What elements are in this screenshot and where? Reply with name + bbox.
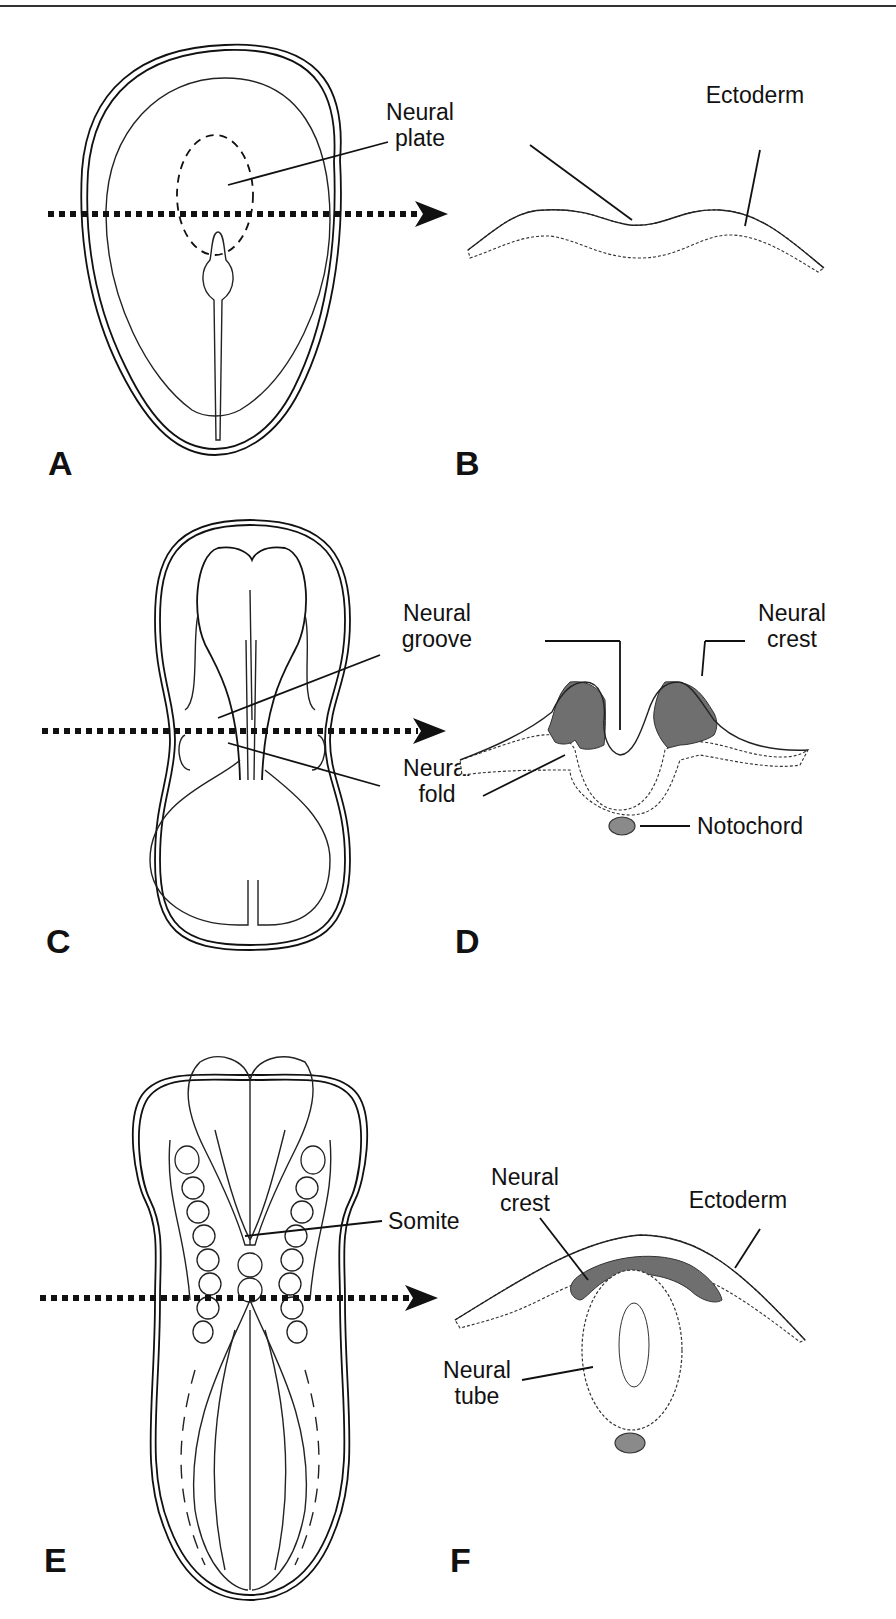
panel-b-section — [468, 210, 824, 272]
notochord — [609, 817, 635, 835]
label-neural-plate-1: Neural — [386, 99, 454, 125]
panel-label-d: D — [455, 922, 480, 960]
leader-neural-fold-c — [228, 743, 380, 786]
label-neural-groove-1: Neural — [403, 600, 471, 626]
neural-plate-outline — [177, 135, 253, 255]
leader-neural-crest-d-v — [702, 641, 705, 676]
neurulation-diagram: A Neural plate Ectoderm B Neural groove … — [0, 0, 896, 1619]
label-neural-crest-d-2: crest — [767, 626, 817, 652]
panel-d-section — [460, 682, 808, 835]
leader-neural-tube-f — [522, 1367, 593, 1380]
arrow-e — [405, 1285, 438, 1311]
label-neural-tube-2: tube — [455, 1383, 500, 1409]
panel-label-b: B — [455, 444, 480, 482]
leader-somite — [245, 1221, 382, 1236]
panel-label-a: A — [48, 444, 73, 482]
panel-label-e: E — [44, 1541, 67, 1579]
label-somite: Somite — [388, 1208, 460, 1234]
panel-label-c: C — [46, 922, 71, 960]
label-notochord: Notochord — [697, 813, 803, 839]
leader-neural-plate-b — [530, 145, 632, 220]
label-neural-plate-2: plate — [395, 125, 445, 151]
leader-ectoderm-f — [735, 1229, 760, 1268]
panel-a-embryo — [81, 45, 341, 455]
leader-ectoderm-b — [745, 150, 760, 226]
notochord-f — [615, 1433, 645, 1453]
panel-c-embryo — [150, 520, 350, 950]
label-neural-fold-2: fold — [418, 781, 455, 807]
panel-f-section — [455, 1235, 805, 1453]
panel-e-embryo — [133, 1057, 367, 1600]
label-neural-crest-f-2: crest — [500, 1190, 550, 1216]
leader-neural-plate-a — [228, 142, 388, 185]
panel-label-f: F — [450, 1541, 471, 1579]
label-ectoderm-b: Ectoderm — [706, 82, 804, 108]
label-neural-tube-1: Neural — [443, 1357, 511, 1383]
leader-neural-groove-c — [218, 655, 380, 718]
label-neural-crest-f-1: Neural — [491, 1164, 559, 1190]
label-ectoderm-f: Ectoderm — [689, 1187, 787, 1213]
label-neural-groove-2: groove — [402, 626, 472, 652]
label-neural-crest-d-1: Neural — [758, 600, 826, 626]
arrow-a — [415, 201, 448, 227]
